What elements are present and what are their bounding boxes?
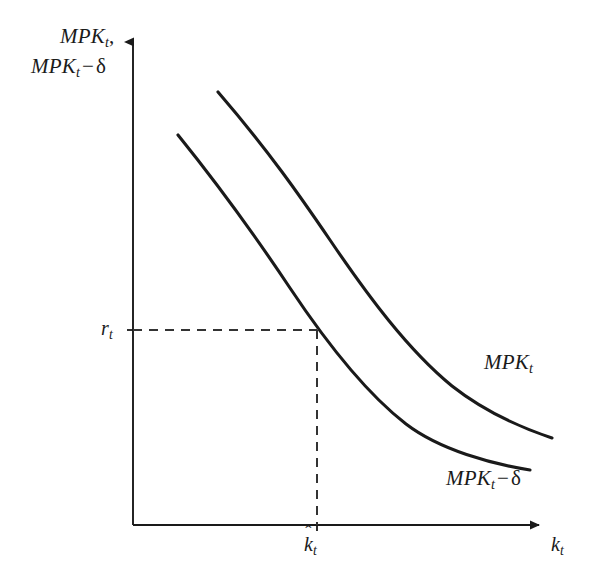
x-axis-label: kt (551, 534, 564, 557)
figure-container: MPKt, MPKt−δ rt ˆkt kt MPKt MPKt−δ (0, 0, 606, 576)
delta-symbol: δ (96, 54, 106, 78)
curve-mpk (218, 92, 552, 438)
kt-base: k (551, 533, 560, 555)
rt-base: r (101, 317, 109, 339)
curve-label-delta-symbol: δ (511, 466, 521, 490)
y-axis-label-line2-text: MPK (31, 54, 76, 78)
rt-subscript: t (109, 327, 113, 342)
khat-subscript: t (313, 543, 317, 558)
y-axis-tick-label-rt: rt (101, 318, 113, 341)
curve-label-mpkd-minus: − (495, 466, 511, 490)
curve-label-mpkd-base: MPK (446, 466, 491, 490)
curve-label-mpk-subscript: t (529, 360, 533, 376)
y-axis-label-line2: MPKt−δ (31, 56, 106, 79)
y-axis-label-line1: MPKt, (60, 26, 114, 49)
hat-accent-icon: ˆ (305, 523, 311, 541)
x-axis-tick-label-khat: ˆkt (304, 534, 317, 557)
y-axis-label-line1-comma: , (109, 24, 114, 48)
khat-base-wrap: ˆk (304, 534, 313, 554)
curve-label-mpk-base: MPK (484, 350, 529, 374)
kt-subscript: t (560, 543, 564, 558)
y-axis-label-line1-text: MPK (60, 24, 105, 48)
curve-mpk-minus-delta (178, 135, 530, 470)
curve-label-mpk: MPKt (484, 352, 533, 375)
curve-label-mpk-minus-delta: MPKt−δ (446, 468, 521, 491)
y-axis-label-line2-minus: − (80, 54, 96, 78)
